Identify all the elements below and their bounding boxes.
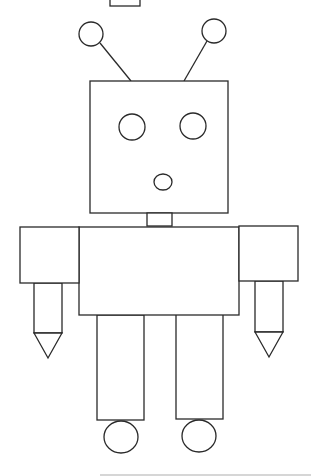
arm-right xyxy=(239,226,298,281)
hand-right-cone xyxy=(255,332,283,357)
antenna-left-stick xyxy=(100,43,131,81)
eye-right xyxy=(180,113,206,139)
forearm-right xyxy=(255,281,283,332)
neck xyxy=(147,213,172,226)
antenna-right-stick xyxy=(184,41,207,81)
mouth xyxy=(154,174,172,190)
foot-left xyxy=(104,421,138,453)
hand-left-cone xyxy=(34,333,62,358)
robot-body xyxy=(79,227,239,315)
forearm-left xyxy=(34,283,62,333)
foot-right xyxy=(182,420,216,452)
robot-drawing xyxy=(0,0,311,476)
antenna-right-ball xyxy=(202,19,226,43)
antenna-left-ball xyxy=(79,22,103,46)
robot-head xyxy=(90,81,228,213)
arm-left xyxy=(20,227,79,283)
eye-left xyxy=(119,114,145,140)
top-rect xyxy=(110,0,140,6)
leg-left xyxy=(97,315,144,420)
leg-right xyxy=(176,314,223,419)
